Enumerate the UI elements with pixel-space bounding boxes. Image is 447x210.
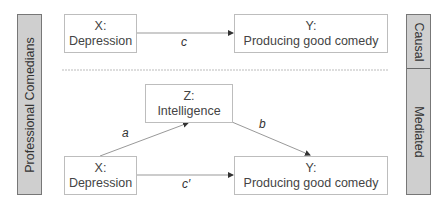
mediator-z-var: Z: [183,89,194,104]
path-b-label: b [259,117,266,131]
causal-x-var: X: [95,19,107,34]
path-c-prime-label: c′ [182,177,190,191]
mediated-y-node: Y: Producing good comedy [234,156,388,195]
causal-x-name: Depression [69,34,132,49]
arrow-b [232,122,310,155]
mediated-y-name: Producing good comedy [244,176,379,191]
causal-y-name: Producing good comedy [244,34,379,49]
mediated-x-var: X: [95,161,107,176]
path-c-label: c [181,35,187,49]
arrow-a [100,123,188,156]
causal-y-node: Y: Producing good comedy [234,14,388,53]
causal-y-var: Y: [305,19,316,34]
mediated-y-var: Y: [305,161,316,176]
mediator-z-name: Intelligence [157,104,220,119]
mediated-x-node: X: Depression [64,156,137,195]
mediated-x-name: Depression [69,176,132,191]
mediator-z-node: Z: Intelligence [145,84,233,123]
causal-x-node: X: Depression [64,14,137,53]
path-a-label: a [122,126,129,140]
